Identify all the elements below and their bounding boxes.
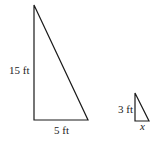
large-base-label: 5 ft	[54, 125, 69, 136]
small-base-label: x	[140, 121, 145, 132]
large-height-label: 15 ft	[9, 65, 29, 76]
small-triangle	[135, 93, 149, 121]
large-triangle	[34, 5, 88, 120]
small-height-label: 3 ft	[118, 104, 133, 115]
